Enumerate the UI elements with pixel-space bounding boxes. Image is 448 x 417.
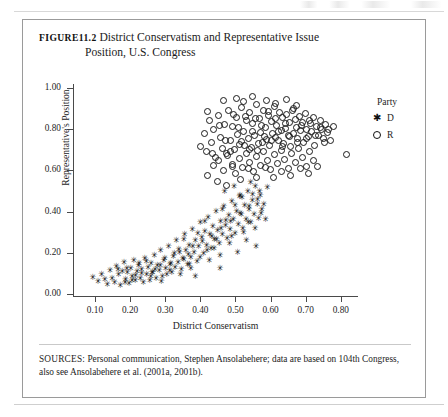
data-point-R (222, 137, 229, 144)
data-point-R (283, 96, 290, 103)
data-point-D: ✳ (157, 278, 164, 285)
data-point-R (306, 148, 313, 155)
data-point-R (314, 163, 321, 170)
data-point-D: ✳ (217, 225, 224, 232)
data-point-R (330, 123, 337, 130)
figure-page: FIGURE11.2 District Conservatism and Rep… (0, 0, 448, 417)
data-point-D: ✳ (166, 267, 173, 274)
data-point-R (240, 98, 247, 105)
data-point-D: ✳ (213, 236, 220, 243)
data-point-D: ✳ (121, 279, 128, 286)
data-point-R (295, 145, 302, 152)
data-point-R (287, 172, 294, 179)
data-point-R (236, 155, 243, 162)
data-point-R (238, 104, 245, 111)
x-tick-label: 0.10 (75, 305, 115, 315)
data-point-D: ✳ (186, 261, 193, 268)
sources-label: SOURCES: (39, 354, 85, 364)
data-point-D: ✳ (142, 258, 149, 265)
data-point-R (215, 112, 222, 119)
data-point-D: ✳ (226, 240, 233, 247)
data-point-D: ✳ (196, 254, 203, 261)
x-tick-label: 0.20 (110, 305, 150, 315)
data-point-D: ✳ (228, 233, 235, 240)
data-point-R (214, 178, 221, 185)
data-point-D: ✳ (252, 243, 259, 250)
data-point-R (260, 148, 267, 155)
data-point-R (288, 150, 295, 157)
data-point-R (253, 174, 260, 181)
data-point-D: ✳ (176, 271, 183, 278)
data-point-R (220, 167, 227, 174)
data-point-R (255, 140, 262, 147)
data-point-D: ✳ (222, 217, 229, 224)
data-point-D: ✳ (216, 252, 223, 259)
sources-note: SOURCES: Personal communication, Stephen… (39, 353, 413, 379)
data-point-R (253, 153, 260, 160)
x-tick (235, 297, 236, 302)
data-point-D: ✳ (167, 260, 174, 267)
data-point-R (208, 139, 215, 146)
x-tick (165, 297, 166, 302)
y-tick (67, 294, 74, 295)
data-point-R (220, 97, 227, 104)
data-point-R (246, 146, 253, 153)
data-point-D: ✳ (203, 247, 210, 254)
data-point-R (299, 154, 306, 161)
data-point-R (230, 111, 237, 118)
page-running-header (300, 1, 446, 8)
data-point-D: ✳ (114, 266, 121, 273)
data-point-R (303, 135, 310, 142)
data-point-D: ✳ (194, 230, 201, 237)
data-point-D: ✳ (234, 249, 241, 256)
x-tick-label: 0.60 (251, 305, 291, 315)
data-point-R (275, 128, 282, 135)
y-tick-label: 0.20 (27, 247, 61, 257)
data-point-D: ✳ (260, 201, 267, 208)
data-point-R (305, 170, 312, 177)
y-tick-label: 0.40 (27, 206, 61, 216)
data-point-D: ✳ (180, 236, 187, 243)
data-point-R (204, 172, 211, 179)
data-point-R (297, 165, 304, 172)
data-point-R (270, 174, 277, 181)
data-point-D: ✳ (192, 273, 199, 280)
data-point-D: ✳ (123, 265, 130, 272)
x-tick-label: 0.80 (321, 305, 361, 315)
plot-data-area: ✳✳✳✳✳✳✳✳✳✳✳✳✳✳✳✳✳✳✳✳✳✳✳✳✳✳✳✳✳✳✳✳✳✳✳✳✳✳✳✳… (73, 88, 354, 294)
data-point-R (286, 133, 293, 140)
data-point-R (265, 108, 272, 115)
x-tick (306, 297, 307, 302)
x-tick-label: 0.50 (215, 305, 255, 315)
star-icon: ✱ (371, 112, 383, 124)
data-point-R (204, 108, 211, 115)
data-point-R (215, 157, 222, 164)
data-point-R (290, 105, 297, 112)
y-tick-label: 1.00 (27, 82, 61, 92)
data-point-D: ✳ (236, 192, 243, 199)
data-point-D: ✳ (245, 219, 252, 226)
x-axis-title: District Conservatism (73, 320, 358, 331)
legend: Party ✱ D R (371, 97, 423, 141)
x-tick-label: 0.30 (145, 305, 185, 315)
data-point-R (274, 160, 281, 167)
data-point-R (302, 110, 309, 117)
data-point-R (272, 115, 279, 122)
data-point-R (264, 157, 271, 164)
sources-divider (39, 344, 411, 345)
data-point-D: ✳ (219, 206, 226, 213)
data-point-R (343, 151, 350, 158)
x-tick (130, 297, 131, 302)
data-point-D: ✳ (185, 251, 192, 258)
legend-entry-r-label: R (387, 129, 393, 141)
data-point-D: ✳ (156, 262, 163, 269)
data-point-R (216, 122, 223, 129)
data-point-R (242, 113, 249, 120)
data-point-D: ✳ (242, 237, 249, 244)
data-point-R (279, 143, 286, 150)
page-bottom-rule (14, 404, 444, 405)
data-point-D: ✳ (206, 257, 213, 264)
data-point-R (263, 97, 270, 104)
data-point-R (285, 165, 292, 172)
x-tick-label: 0.40 (180, 305, 220, 315)
